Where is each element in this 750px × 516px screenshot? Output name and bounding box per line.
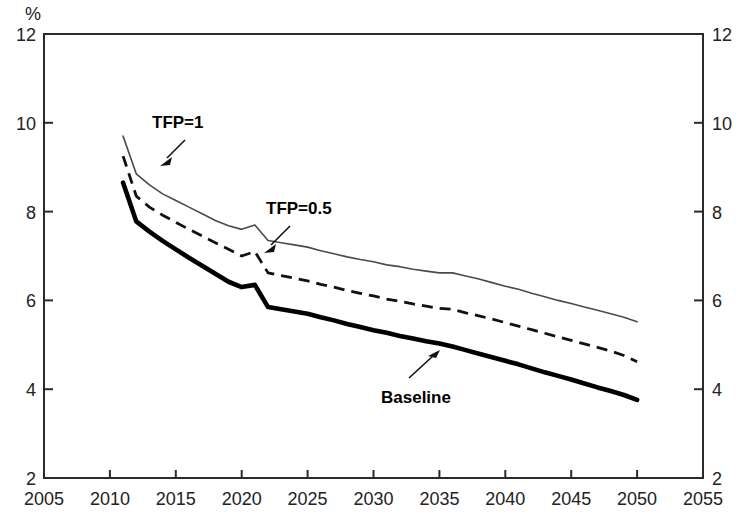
annotation-baseline: Baseline [381,350,451,407]
annotation-arrow-tfp1 [167,140,185,158]
annotation-label-tfp05: TFP=0.5 [266,199,332,218]
series-line-baseline [123,183,637,400]
annotation-label-tfp1: TFP=1 [152,113,204,132]
y-axis-right: 12 10 8 6 4 2 [694,25,732,489]
x-label-2055: 2055 [683,489,723,509]
annotation-label-baseline: Baseline [381,388,451,407]
x-label-2025: 2025 [288,489,328,509]
plot-frame [44,34,703,478]
annotation-arrow-baseline [409,356,433,378]
line-chart: % 12 10 8 6 4 2 12 10 8 6 4 2 [0,0,750,516]
y-label-right-8: 8 [712,203,722,223]
x-label-2040: 2040 [485,489,525,509]
x-label-2045: 2045 [551,489,591,509]
annotation-tfp1: TFP=1 [152,113,204,166]
x-axis-labels: 2005201020152020202520302035204020452050… [24,489,723,509]
y-axis-unit-label: % [25,4,41,24]
y-label-right-10: 10 [712,114,732,134]
y-label-left-6: 6 [26,291,36,311]
y-label-right-2: 2 [712,469,722,489]
y-label-left-10: 10 [16,114,36,134]
x-label-2030: 2030 [353,489,393,509]
x-label-2050: 2050 [617,489,657,509]
x-label-2015: 2015 [156,489,196,509]
y-label-left-2: 2 [26,469,36,489]
y-axis-left: 12 10 8 6 4 2 [16,25,53,489]
y-label-right-12: 12 [712,25,732,45]
chart-container: % 12 10 8 6 4 2 12 10 8 6 4 2 [0,0,750,516]
y-label-right-6: 6 [712,291,722,311]
y-label-right-4: 4 [712,380,722,400]
annotation-arrowhead-tfp05 [264,244,276,253]
annotation-arrowhead-baseline [428,350,440,358]
annotation-arrowhead-tfp1 [160,157,172,166]
y-label-left-4: 4 [26,380,36,400]
x-label-2010: 2010 [90,489,130,509]
y-label-left-8: 8 [26,203,36,223]
y-label-left-12: 12 [16,25,36,45]
x-label-2035: 2035 [419,489,459,509]
series-line-tfp1 [123,136,637,322]
x-label-2020: 2020 [222,489,262,509]
x-axis-ticks [110,470,637,478]
x-label-2005: 2005 [24,489,64,509]
